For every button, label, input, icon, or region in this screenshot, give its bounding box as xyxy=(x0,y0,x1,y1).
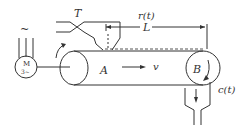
ac-supply: ~ xyxy=(19,23,33,58)
length-dimension: L r(t) xyxy=(106,10,207,49)
end-pulley xyxy=(186,51,220,85)
label-r-t: r(t) xyxy=(138,10,155,21)
rotation-arrow-b-icon xyxy=(203,60,209,81)
label-v: v xyxy=(153,61,159,72)
velocity-arrow-icon xyxy=(122,65,146,69)
label-c-t: c(t) xyxy=(218,84,236,95)
motor-phase: 3~ xyxy=(21,68,30,75)
label-a: A xyxy=(99,64,108,77)
output-chute xyxy=(185,82,210,125)
label-t: T xyxy=(74,7,83,20)
ac-symbol: ~ xyxy=(20,23,29,36)
label-l: L xyxy=(142,21,150,34)
drive-pulley xyxy=(60,51,88,85)
label-b: B xyxy=(192,63,201,76)
conveyor-diagram: ~ M 3~ B T A L xyxy=(0,0,245,133)
motor-letter: M xyxy=(23,60,30,68)
